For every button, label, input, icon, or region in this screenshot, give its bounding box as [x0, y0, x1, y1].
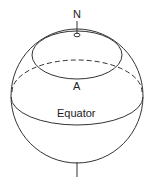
north-label: N: [73, 9, 81, 20]
equator-label: Equator: [57, 108, 96, 119]
point-a-label: A: [73, 81, 80, 92]
sphere-outline: [11, 29, 143, 163]
latitude-circle-a: [32, 31, 122, 79]
